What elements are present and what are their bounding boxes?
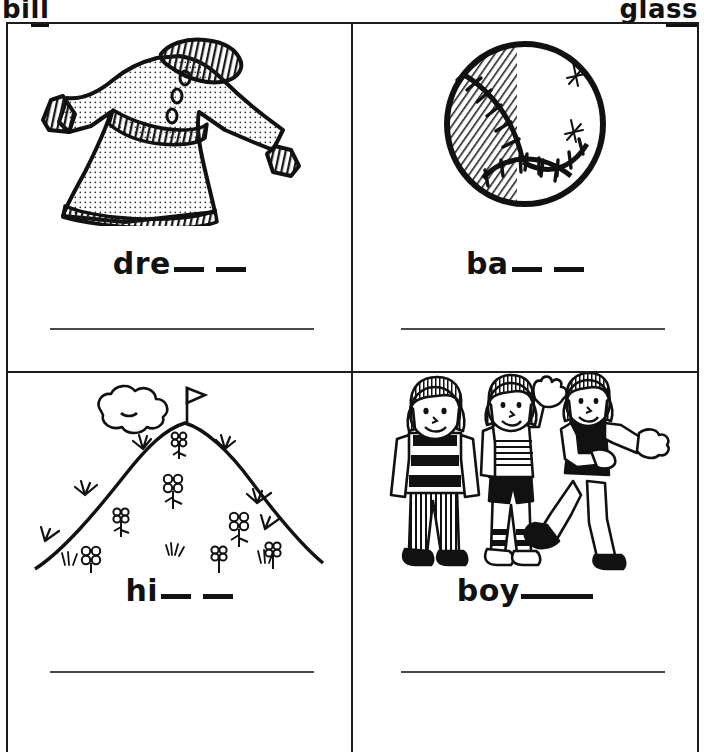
- baseball-illustration: [353, 26, 698, 234]
- answer-write-line-ball[interactable]: [401, 328, 665, 330]
- worksheet-cell-hill: hi: [8, 373, 353, 752]
- worksheet-cell-dress: dre: [8, 24, 353, 373]
- header-example-glass: glass: [619, 0, 698, 22]
- dress-illustration: [8, 26, 351, 234]
- answer-write-line-hill[interactable]: [50, 671, 314, 673]
- word-blank-2[interactable]: [203, 594, 233, 599]
- word-blank-2[interactable]: [216, 267, 246, 272]
- word-stem-dress: dre: [113, 246, 171, 281]
- header-example-bill-prefix: bi: [2, 0, 31, 24]
- worksheet-cell-ball: ba: [353, 24, 698, 373]
- boys-illustration: [353, 373, 698, 569]
- word-blank-1[interactable]: [174, 267, 204, 272]
- word-prompt-ball: ba: [353, 246, 698, 281]
- word-prompt-hill: hi: [8, 573, 351, 608]
- word-blank-1[interactable]: [161, 594, 191, 599]
- word-blank-1[interactable]: [521, 594, 593, 599]
- answer-write-line-dress[interactable]: [50, 328, 314, 330]
- word-blank-1[interactable]: [512, 267, 542, 272]
- worksheet-cell-boys: boy: [353, 373, 698, 752]
- word-stem-hill: hi: [125, 573, 158, 608]
- hill-illustration: [8, 373, 351, 569]
- header-example-glass-prefix: gla: [619, 0, 666, 24]
- header-example-bill: bill: [2, 0, 49, 22]
- word-stem-ball: ba: [466, 246, 509, 281]
- word-prompt-boys: boy: [353, 573, 698, 608]
- word-prompt-dress: dre: [8, 246, 351, 281]
- answer-write-line-boys[interactable]: [401, 671, 665, 673]
- worksheet-grid: dre: [6, 22, 699, 752]
- word-stem-boys: boy: [457, 573, 520, 608]
- word-blank-2[interactable]: [554, 267, 584, 272]
